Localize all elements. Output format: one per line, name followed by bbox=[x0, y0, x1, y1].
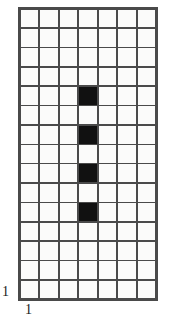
grid-cell bbox=[21, 184, 39, 202]
grid-cell bbox=[40, 29, 58, 47]
y-axis-tick-label: 1 bbox=[2, 285, 9, 299]
grid-cell bbox=[60, 184, 78, 202]
grid-cell bbox=[99, 29, 117, 47]
grid-cell bbox=[99, 126, 117, 144]
grid-cell bbox=[118, 29, 136, 47]
grid-cell bbox=[60, 145, 78, 163]
grid-cell bbox=[99, 145, 117, 163]
cell-grid bbox=[19, 8, 157, 300]
grid-plot-area bbox=[19, 8, 157, 300]
grid-cell bbox=[118, 106, 136, 124]
grid-cell bbox=[60, 68, 78, 86]
grid-cell bbox=[60, 223, 78, 241]
grid-cell bbox=[118, 203, 136, 221]
grid-cell bbox=[79, 242, 97, 260]
grid-cell bbox=[79, 281, 97, 299]
grid-cell bbox=[99, 48, 117, 66]
grid-cell bbox=[79, 106, 97, 124]
grid-cell bbox=[138, 10, 156, 28]
grid-cell bbox=[40, 164, 58, 182]
grid-cell bbox=[99, 223, 117, 241]
grid-cell bbox=[118, 184, 136, 202]
grid-cell bbox=[40, 68, 58, 86]
grid-cell bbox=[138, 242, 156, 260]
grid-cell bbox=[21, 242, 39, 260]
grid-cell bbox=[99, 242, 117, 260]
x-axis-tick-label: 1 bbox=[25, 303, 32, 317]
grid-cell bbox=[138, 203, 156, 221]
grid-cell bbox=[79, 68, 97, 86]
grid-cell bbox=[40, 281, 58, 299]
grid-cell bbox=[138, 29, 156, 47]
grid-cell bbox=[60, 164, 78, 182]
grid-cell bbox=[40, 242, 58, 260]
grid-cell bbox=[40, 48, 58, 66]
grid-cell bbox=[21, 106, 39, 124]
grid-cell bbox=[118, 48, 136, 66]
grid-cell bbox=[21, 281, 39, 299]
grid-cell bbox=[40, 106, 58, 124]
grid-cell bbox=[118, 68, 136, 86]
grid-cell bbox=[79, 184, 97, 202]
grid-cell bbox=[21, 87, 39, 105]
grid-cell bbox=[40, 10, 58, 28]
grid-cell bbox=[21, 29, 39, 47]
grid-cell bbox=[21, 223, 39, 241]
grid-cell bbox=[118, 10, 136, 28]
grid-cell bbox=[99, 203, 117, 221]
grid-cell bbox=[21, 164, 39, 182]
grid-cell bbox=[118, 242, 136, 260]
grid-cell bbox=[138, 164, 156, 182]
grid-cell bbox=[79, 10, 97, 28]
grid-cell bbox=[118, 223, 136, 241]
grid-cell bbox=[60, 242, 78, 260]
grid-cell bbox=[79, 87, 97, 105]
grid-cell bbox=[21, 10, 39, 28]
grid-cell bbox=[138, 87, 156, 105]
grid-cell bbox=[118, 261, 136, 279]
grid-cell bbox=[79, 145, 97, 163]
grid-cell bbox=[138, 223, 156, 241]
grid-cell bbox=[79, 164, 97, 182]
grid-cell bbox=[40, 126, 58, 144]
grid-cell bbox=[21, 48, 39, 66]
grid-cell bbox=[118, 145, 136, 163]
grid-cell bbox=[99, 184, 117, 202]
grid-cell bbox=[40, 184, 58, 202]
grid-cell bbox=[99, 68, 117, 86]
grid-cell bbox=[138, 126, 156, 144]
grid-cell bbox=[138, 261, 156, 279]
grid-cell bbox=[60, 106, 78, 124]
grid-cell bbox=[21, 203, 39, 221]
grid-cell bbox=[60, 281, 78, 299]
grid-cell bbox=[118, 87, 136, 105]
grid-cell bbox=[138, 68, 156, 86]
grid-cell bbox=[21, 145, 39, 163]
grid-cell bbox=[60, 10, 78, 28]
grid-cell bbox=[99, 10, 117, 28]
grid-cell bbox=[40, 203, 58, 221]
grid-cell bbox=[21, 126, 39, 144]
grid-cell bbox=[60, 48, 78, 66]
grid-cell bbox=[60, 87, 78, 105]
grid-cell bbox=[40, 87, 58, 105]
grid-cell bbox=[99, 87, 117, 105]
grid-cell bbox=[138, 106, 156, 124]
grid-cell bbox=[79, 48, 97, 66]
grid-cell bbox=[99, 281, 117, 299]
grid-cell bbox=[60, 126, 78, 144]
grid-cell bbox=[99, 261, 117, 279]
grid-cell bbox=[118, 164, 136, 182]
grid-cell bbox=[138, 145, 156, 163]
grid-cell bbox=[40, 261, 58, 279]
grid-cell bbox=[79, 223, 97, 241]
grid-cell bbox=[79, 29, 97, 47]
grid-chart-figure: 1 1 bbox=[0, 0, 169, 321]
grid-cell bbox=[21, 68, 39, 86]
grid-cell bbox=[118, 281, 136, 299]
grid-cell bbox=[99, 164, 117, 182]
grid-cell bbox=[79, 203, 97, 221]
grid-cell bbox=[60, 29, 78, 47]
grid-cell bbox=[138, 281, 156, 299]
grid-cell bbox=[79, 126, 97, 144]
